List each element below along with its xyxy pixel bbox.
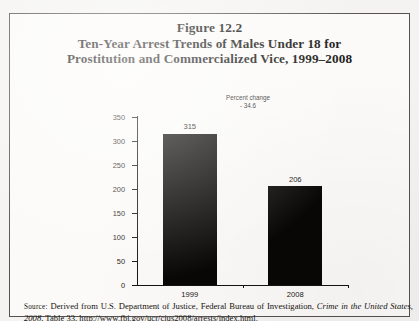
figure-title-line-2: Ten-Year Arrest Trends of Males Under 18… <box>10 36 409 52</box>
x-axis-tick-label: 1999 <box>181 290 198 299</box>
bar-value-label: 206 <box>289 175 302 184</box>
x-axis-tick-mark <box>243 285 244 288</box>
source-text-after: , Table 33, http://www.fbi.gov/ucr/cius2… <box>41 313 258 321</box>
bar-value-label: 315 <box>183 122 196 131</box>
bar: 206 <box>268 186 322 285</box>
y-axis-tick-label: 150 <box>113 209 125 218</box>
x-axis-tick-label: 2008 <box>287 290 304 299</box>
bar: 315 <box>163 134 217 285</box>
y-axis-tick-label: 300 <box>113 137 125 146</box>
y-axis-tick-label: 50 <box>117 257 125 266</box>
percent-change-label: Percent change <box>206 94 290 102</box>
y-axis-tick-label: 350 <box>113 113 125 122</box>
source-text-before: Derived from U.S. Department of Justice,… <box>48 301 317 311</box>
figure-title-line-3: Prostitution and Commercialized Vice, 19… <box>10 51 409 67</box>
y-axis-tick-mark <box>132 285 138 286</box>
source-note: Source: Derived from U.S. Department of … <box>24 301 413 321</box>
y-axis-tick-label: 0 <box>121 281 125 290</box>
y-axis-tick-label: 250 <box>113 161 125 170</box>
y-axis-tick-label: 200 <box>113 185 125 194</box>
x-axis-tick-mark <box>348 285 349 288</box>
figure-box: Figure 12.2 Ten-Year Arrest Trends of Ma… <box>9 13 410 317</box>
source-prefix: Source: <box>24 303 48 311</box>
plot-area: 315206 <box>137 117 348 285</box>
bar-chart: 050100150200250300350 315206 19992008 <box>128 109 358 294</box>
figure-title: Figure 12.2 Ten-Year Arrest Trends of Ma… <box>10 20 409 67</box>
figure-title-line-1: Figure 12.2 <box>10 20 409 36</box>
y-axis-tick-label: 100 <box>113 233 125 242</box>
